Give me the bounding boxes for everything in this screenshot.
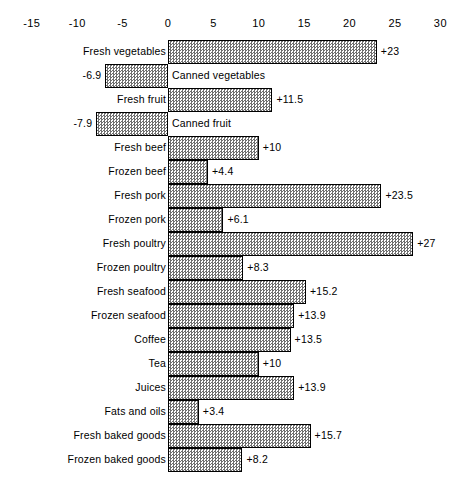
- bar-value-label: +27: [417, 236, 435, 251]
- bar-value-label: -6.9: [82, 68, 101, 83]
- bar-row: Canned vegetables-6.9: [0, 64, 459, 88]
- bar: [168, 88, 272, 112]
- bar-value-label: +13.9: [298, 308, 326, 323]
- bar-category-label: Frozen pork: [108, 212, 166, 227]
- bar-row: Fresh pork+23.5: [0, 184, 459, 208]
- bar-row: Frozen seafood+13.9: [0, 304, 459, 328]
- bar-row: Fresh fruit+11.5: [0, 88, 459, 112]
- x-tick-label: 20: [343, 16, 356, 30]
- bar: [168, 160, 208, 184]
- bar: [168, 256, 243, 280]
- bar-category-label: Fresh fruit: [117, 92, 166, 107]
- bar: [168, 424, 311, 448]
- plot-area: Fresh vegetables+23Canned vegetables-6.9…: [0, 40, 459, 472]
- bar-value-label: +15.2: [310, 284, 338, 299]
- bar: [168, 352, 259, 376]
- bar-row: Juices+13.9: [0, 376, 459, 400]
- bar-row: Fresh seafood+15.2: [0, 280, 459, 304]
- x-tick-label: -10: [69, 16, 86, 30]
- x-tick-label: 30: [434, 16, 447, 30]
- bar-category-label: Canned fruit: [172, 116, 231, 131]
- bar-row: Fresh poultry+27: [0, 232, 459, 256]
- bar: [168, 136, 259, 160]
- x-axis: -15-10-5051015202530: [0, 16, 459, 32]
- bar-row: Fresh vegetables+23: [0, 40, 459, 64]
- x-tick-label: -5: [117, 16, 128, 30]
- bar-row: Tea+10: [0, 352, 459, 376]
- bar-value-label: +23.5: [385, 188, 413, 203]
- bar: [168, 208, 223, 232]
- bar: [168, 448, 242, 472]
- x-tick-label: 15: [298, 16, 311, 30]
- bar: [168, 328, 291, 352]
- bar-row: Frozen beef+4.4: [0, 160, 459, 184]
- bar-value-label: +13.5: [295, 332, 323, 347]
- bar-row: Frozen poultry+8.3: [0, 256, 459, 280]
- bar-value-label: +3.4: [203, 404, 225, 419]
- bar-value-label: +8.2: [246, 452, 268, 467]
- bar-value-label: +15.7: [315, 428, 343, 443]
- bar: [168, 280, 306, 304]
- bar-category-label: Fresh vegetables: [83, 44, 166, 59]
- bar: [168, 184, 381, 208]
- bar-row: Frozen pork+6.1: [0, 208, 459, 232]
- bar: [168, 304, 294, 328]
- bar-category-label: Fresh pork: [114, 188, 166, 203]
- x-tick-label: -15: [23, 16, 40, 30]
- x-tick-label: 10: [252, 16, 265, 30]
- bar-category-label: Tea: [149, 356, 166, 371]
- bar-chart: -15-10-5051015202530 Fresh vegetables+23…: [0, 0, 459, 488]
- bar: [168, 400, 199, 424]
- bar: [168, 376, 294, 400]
- bar-category-label: Canned vegetables: [172, 68, 265, 83]
- bar-category-label: Fresh poultry: [103, 236, 166, 251]
- bar-row: Fresh baked goods+15.7: [0, 424, 459, 448]
- bar-category-label: Juices: [135, 380, 166, 395]
- bar-value-label: +10: [263, 140, 281, 155]
- bar-value-label: +11.5: [276, 92, 303, 107]
- bar-value-label: +8.3: [247, 260, 269, 275]
- x-tick-label: 5: [210, 16, 217, 30]
- bar-row: Fresh beef+10: [0, 136, 459, 160]
- bar-row: Coffee+13.5: [0, 328, 459, 352]
- bar-category-label: Fresh seafood: [97, 284, 166, 299]
- bar: [105, 64, 168, 88]
- bar-row: Frozen baked goods+8.2: [0, 448, 459, 472]
- bar-value-label: +6.1: [227, 212, 249, 227]
- bar-category-label: Fresh baked goods: [74, 428, 166, 443]
- bar-category-label: Frozen seafood: [91, 308, 166, 323]
- bar-category-label: Coffee: [134, 332, 166, 347]
- bar-category-label: Fresh beef: [114, 140, 166, 155]
- bar-value-label: -7.9: [73, 116, 92, 131]
- bar: [96, 112, 168, 136]
- bar-value-label: +10: [263, 356, 281, 371]
- bar-row: Fats and oils+3.4: [0, 400, 459, 424]
- bar-category-label: Frozen beef: [108, 164, 166, 179]
- bar-category-label: Frozen baked goods: [68, 452, 166, 467]
- bar: [168, 40, 377, 64]
- x-tick-label: 25: [388, 16, 401, 30]
- bar: [168, 232, 413, 256]
- bar-row: Canned fruit-7.9: [0, 112, 459, 136]
- bar-value-label: +23: [381, 44, 399, 59]
- bar-category-label: Frozen poultry: [97, 260, 166, 275]
- bar-value-label: +13.9: [298, 380, 326, 395]
- bar-value-label: +4.4: [212, 164, 234, 179]
- bar-category-label: Fats and oils: [105, 404, 166, 419]
- x-tick-label: 0: [165, 16, 172, 30]
